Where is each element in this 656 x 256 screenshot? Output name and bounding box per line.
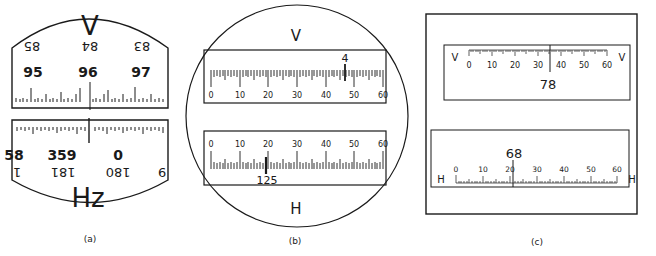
panel-c-v-scale-label: 10 (487, 61, 497, 70)
panel-a-hz-scale-ticks (17, 127, 163, 134)
panel-b-h-scale-label: 60 (378, 140, 388, 149)
panel-a-inverted-label: 85 (24, 39, 41, 54)
panel-a: V 85 84 83 95 96 97 (4, 11, 168, 244)
panel-c-h-scale-label: 20 (505, 165, 515, 174)
panel-a-inverted-label: 83 (134, 39, 151, 54)
panel-a-inverted-label: 84 (82, 39, 99, 54)
panel-c-v-scale-label: 50 (579, 61, 589, 70)
panel-a-hz-label: 359 (47, 147, 76, 163)
panel-a-caption: (a) (84, 234, 97, 244)
panel-b-h-letter: H (290, 200, 301, 218)
panel-b-h-scale-label: 50 (349, 140, 359, 149)
panel-c-v-scale-label: 30 (533, 61, 543, 70)
panel-c-v-left-letter: V (452, 52, 459, 63)
panel-c-h-scale-label: 60 (612, 165, 622, 174)
panel-b: V 4 0 10 20 30 40 50 60 0 10 20 (186, 5, 408, 246)
panel-c: V V 0 10 20 30 40 50 60 78 68 H H (426, 14, 637, 247)
panel-a-v-label: 95 (23, 64, 42, 80)
panel-b-caption: (b) (289, 236, 302, 246)
panel-c-h-scale-label: 30 (532, 165, 542, 174)
panel-c-v-index-label: 78 (540, 77, 557, 92)
panel-b-h-scale-label: 20 (263, 140, 273, 149)
panel-c-frame (426, 14, 637, 214)
panel-b-v-scale-label: 30 (292, 91, 302, 100)
panel-b-v-scale-ticks (211, 70, 383, 87)
panel-c-caption: (c) (531, 237, 543, 247)
panel-c-h-scale-label: 0 (454, 165, 459, 174)
panel-c-v-scale-label: 60 (602, 61, 612, 70)
panel-c-v-scale-label: 20 (510, 61, 520, 70)
panel-b-v-index-label: 4 (342, 52, 349, 65)
panel-b-h-index-label: 125 (257, 174, 278, 187)
panel-c-h-scale-label: 10 (478, 165, 488, 174)
panel-b-v-scale-label: 50 (349, 91, 359, 100)
panel-a-hz-inverted-label: 1 (13, 165, 21, 180)
panel-c-h-window (431, 130, 629, 187)
panel-c-h-right-letter: H (628, 174, 636, 185)
panel-c-h-scale-label: 40 (559, 165, 569, 174)
panel-c-v-scale-label: 0 (466, 61, 471, 70)
panel-b-v-scale-label: 20 (263, 91, 273, 100)
panel-a-v-label: 96 (78, 64, 97, 80)
panel-c-h-scale-ticks (456, 175, 617, 183)
panel-a-hz-inverted-label: 9 (158, 165, 166, 180)
panel-c-h-left-letter: H (437, 174, 445, 185)
panel-b-v-scale-label: 10 (235, 91, 245, 100)
panel-b-h-scale-ticks (211, 151, 383, 169)
reading-scales-diagram: V 85 84 83 95 96 97 (0, 0, 656, 256)
panel-b-v-scale-label: 60 (378, 91, 388, 100)
panel-a-hz-inverted-label: 180 (106, 165, 131, 180)
panel-b-v-letter: V (291, 27, 302, 45)
panel-b-h-scale-label: 0 (208, 140, 213, 149)
panel-c-v-window (444, 45, 630, 100)
panel-b-v-scale-label: 0 (208, 91, 213, 100)
panel-c-v-scale-label: 40 (556, 61, 566, 70)
panel-a-hz-label: 0 (113, 147, 123, 163)
panel-c-v-right-letter: V (619, 52, 626, 63)
panel-c-h-scale-label: 50 (586, 165, 596, 174)
panel-c-v-scale-ticks (469, 50, 607, 56)
panel-b-v-scale-label: 40 (321, 91, 331, 100)
panel-a-hz-label: 58 (4, 147, 23, 163)
panel-b-h-scale-label: 30 (292, 140, 302, 149)
panel-a-v-label: 97 (131, 64, 150, 80)
panel-a-hz-inverted-label: 181 (51, 165, 76, 180)
panel-b-h-scale-label: 10 (235, 140, 245, 149)
panel-a-hz-letter: Hz (71, 183, 104, 213)
panel-b-h-scale-label: 40 (321, 140, 331, 149)
panel-a-v-letter: V (81, 11, 99, 41)
panel-c-h-index-label: 68 (506, 146, 523, 161)
